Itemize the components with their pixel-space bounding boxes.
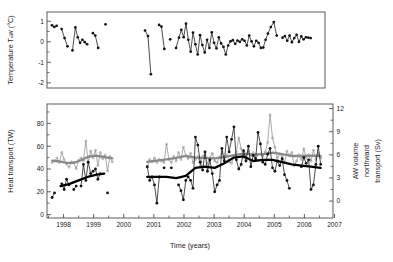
heat-transport-marker <box>146 165 149 168</box>
temperature-marker <box>220 42 223 45</box>
temperature-marker <box>206 38 209 41</box>
temperature-marker <box>92 32 95 35</box>
temperature-marker <box>169 38 172 41</box>
temperature-marker <box>275 34 278 37</box>
heat-transport-marker <box>261 161 264 164</box>
temperature-marker <box>194 43 197 46</box>
heat-transport-marker <box>177 184 180 187</box>
heat-transport-marker <box>80 185 83 188</box>
x-tick-label: 2006 <box>297 221 312 228</box>
x-tick-label: 2001 <box>147 221 162 228</box>
heat-transport-marker <box>305 162 308 165</box>
temperature-marker <box>298 40 301 43</box>
heat-transport-marker <box>199 161 202 164</box>
heat-transport-marker <box>271 166 274 169</box>
heat-transport-marker <box>225 136 228 139</box>
temperature-marker <box>201 44 204 47</box>
y-tick-label-left: 0 <box>40 211 44 218</box>
heat-transport-marker <box>228 150 231 153</box>
heat-transport-marker <box>259 143 262 146</box>
temperature-marker <box>182 36 185 39</box>
temperature-marker <box>76 36 79 39</box>
y-tick-label-right: 12 <box>337 105 345 112</box>
temperature-marker <box>222 46 225 49</box>
scientific-figure: 10-1-2 Temperature Tₐᴡ (°C) 020406080 03… <box>0 0 393 262</box>
heat-transport-marker <box>302 156 305 159</box>
time-axis-label: Time (years) <box>170 241 210 250</box>
y-tick-label-right: 9 <box>337 128 341 135</box>
heat-transport-marker <box>208 158 211 161</box>
temperature-marker <box>81 38 84 41</box>
temperature-marker <box>215 47 218 50</box>
heat-transport-marker <box>96 178 99 181</box>
heat-transport-marker <box>245 160 248 163</box>
y-tick-label-left: 40 <box>37 165 45 172</box>
temperature-marker <box>144 29 147 32</box>
heat-transport-marker <box>314 163 317 166</box>
heat-transport-marker <box>53 192 56 195</box>
temperature-marker <box>305 36 308 39</box>
heat-transport-marker <box>206 170 209 173</box>
heat-transport-marker <box>283 173 286 176</box>
heat-transport-marker <box>252 154 255 157</box>
temperature-marker <box>227 44 230 47</box>
heat-transport-marker <box>286 179 289 182</box>
svg-text:transport (Sv): transport (Sv) <box>373 139 382 183</box>
heat-transport-marker <box>257 131 260 134</box>
heat-transport-marker <box>72 188 75 191</box>
temperature-marker <box>199 34 202 37</box>
heat-transport-marker <box>312 184 315 187</box>
temperature-marker <box>63 37 66 40</box>
temperature-marker <box>264 38 267 41</box>
heat-transport-marker <box>242 149 245 152</box>
y-tick-label-right: 3 <box>337 174 341 181</box>
temperature-marker <box>66 45 69 48</box>
svg-text:AW volume: AW volume <box>351 143 360 179</box>
heat-transport-marker <box>196 144 199 147</box>
heat-transport-marker <box>75 185 78 188</box>
temperature-marker <box>94 34 97 37</box>
x-tick-label: 2000 <box>116 221 131 228</box>
transport-plot-frame <box>47 104 333 218</box>
heat-transport-marker <box>288 187 291 190</box>
heat-transport-marker <box>216 184 219 187</box>
heat-transport-marker <box>163 166 166 169</box>
temperature-marker <box>307 36 310 39</box>
temperature-marker <box>253 45 256 48</box>
heat-transport-marker <box>240 163 243 166</box>
heat-transport-marker <box>94 168 97 171</box>
x-tick-label: 2002 <box>177 221 192 228</box>
temperature-marker <box>208 47 211 50</box>
x-tick-label: 1998 <box>56 221 71 228</box>
heat-transport-marker <box>204 150 207 153</box>
temperature-marker <box>55 24 58 27</box>
temperature-marker <box>293 37 296 40</box>
temperature-marker <box>248 34 251 37</box>
temperature-marker <box>284 35 287 38</box>
heat-transport-marker <box>184 179 187 182</box>
y-tick-label: -1 <box>38 59 44 66</box>
heat-transport-axis-label: Heat transport (TW) <box>6 129 15 193</box>
heat-transport-marker <box>63 188 66 191</box>
x-tick-label: 2005 <box>267 221 282 228</box>
temperature-marker <box>53 26 56 29</box>
temperature-marker <box>257 41 260 44</box>
temperature-marker <box>267 32 270 35</box>
heat-transport-marker <box>281 157 284 160</box>
heat-transport-marker <box>155 202 158 205</box>
temperature-marker <box>270 26 273 29</box>
heat-transport-marker <box>87 161 90 164</box>
y-tick-label-left: 80 <box>37 120 45 127</box>
temperature-marker <box>74 26 77 29</box>
heat-transport-marker <box>247 145 250 148</box>
heat-transport-marker <box>266 153 269 156</box>
temperature-marker <box>175 47 178 50</box>
temperature-marker <box>158 24 161 27</box>
temperature-marker <box>260 47 263 50</box>
y-tick-label: 1 <box>40 18 44 25</box>
temperature-marker <box>203 51 206 54</box>
temperature-marker <box>231 39 234 42</box>
heat-transport-marker <box>310 188 313 191</box>
heat-transport-marker <box>92 170 95 173</box>
heat-transport-marker <box>89 172 92 175</box>
